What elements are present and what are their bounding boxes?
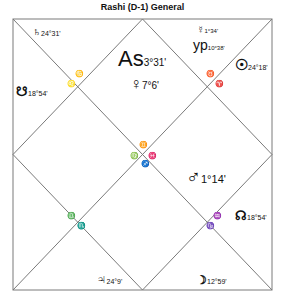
mars-icon: ♂ [186, 165, 201, 187]
sign-aries-h3: ♈ [215, 80, 224, 87]
planet-moon: ☽12°59' [196, 271, 227, 287]
rahu-icon: ☊ [235, 208, 247, 223]
sign-pisces-h4: ♓ [148, 152, 157, 159]
sun-icon: ☉ [235, 56, 248, 73]
planet-sun: ☉24°18' [235, 57, 268, 73]
planet-yogi-point: yp10°38' [193, 37, 225, 53]
planet-rahu: ☊18°54' [235, 207, 267, 223]
sign-scorpio-h8: ♏ [77, 222, 86, 229]
sign-cancer-h12: ♋ [75, 70, 84, 77]
jupiter-icon: ♃ [96, 271, 107, 287]
sign-capricorn-h6: ♑ [206, 222, 215, 229]
sign-taurus-h2: ♉ [206, 70, 215, 77]
sign-aquarius-h5: ♒ [213, 212, 222, 219]
planet-venus: ♀7°6' [130, 76, 159, 92]
planet-ketu: ☋18°54' [16, 83, 48, 99]
planet-mercury: ☿1°34' [197, 20, 218, 36]
mercury-icon: ☿ [197, 24, 205, 35]
sign-leo-h11: ♌ [67, 80, 76, 87]
sign-sagittarius-h7: ♐ [141, 160, 150, 167]
planet-mars: ♂1°14' [186, 166, 226, 186]
planet-saturn: ♄24°31' [32, 23, 61, 39]
planet-jupiter: ♃24°9' [96, 271, 122, 287]
venus-icon: ♀ [130, 75, 142, 92]
sign-virgo-h10: ♍ [130, 152, 139, 159]
sign-libra-h9: ♎ [67, 212, 76, 219]
saturn-icon: ♄ [32, 25, 41, 39]
moon-icon: ☽ [196, 273, 207, 287]
planet-ascendant: As3°31' [118, 48, 166, 70]
ketu-icon: ☋ [16, 84, 28, 99]
sign-gemini-h1: ♊ [139, 141, 148, 148]
